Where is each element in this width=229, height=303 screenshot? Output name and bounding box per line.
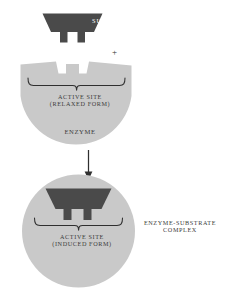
substrate-bound-prong-left-icon [64, 209, 72, 220]
plus-icon: + [0, 47, 229, 58]
substrate-prong-left-icon [60, 32, 68, 43]
active-site-relaxed-label: ACTIVE SITE (RELAXED FORM) [15, 93, 145, 108]
substrate-prong-right-icon [78, 32, 86, 43]
enzyme-substrate-complex-group [22, 175, 135, 288]
substrate-label: SUBSTRATE [0, 17, 229, 25]
enzyme-induced-fit-diagram [0, 0, 229, 303]
substrate-bound-body-icon [46, 189, 112, 210]
active-site-induced-label: ACTIVE SITE (INDUCED FORM) [17, 233, 147, 248]
enzyme-label: ENZYME [15, 128, 145, 136]
enzyme-substrate-complex-label: ENZYME-SUBSTRATE COMPLEX [133, 219, 227, 234]
substrate-bound-prong-right-icon [84, 209, 92, 220]
